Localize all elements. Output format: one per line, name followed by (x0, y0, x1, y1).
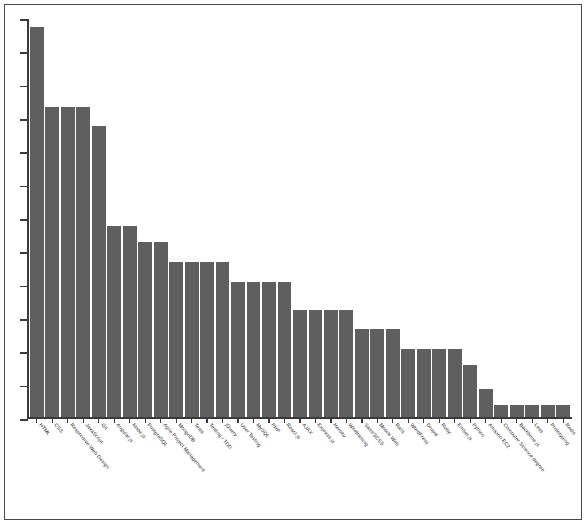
bar-slot (91, 19, 106, 417)
bar-slot (29, 19, 44, 417)
bar[interactable] (92, 126, 106, 417)
bar[interactable] (309, 310, 323, 417)
bar-slot (540, 19, 555, 417)
bar-slot (44, 19, 59, 417)
y-axis-tick (20, 19, 28, 21)
bar-slot (215, 19, 230, 417)
bar-series (29, 19, 571, 417)
bar[interactable] (510, 405, 524, 417)
y-axis-tick (20, 119, 28, 121)
bar[interactable] (278, 282, 292, 417)
x-axis-tick (547, 417, 548, 423)
bar-slot (246, 19, 261, 417)
x-axis-tick (114, 417, 115, 423)
x-axis-tick (563, 417, 564, 423)
x-axis-tick (222, 417, 223, 423)
x-axis-tick (268, 417, 269, 423)
x-axis-tick (392, 417, 393, 423)
x-axis-tick (315, 417, 316, 423)
chart-page: HTMLCSSResponsive Web DesignJavaScriptGi… (0, 0, 588, 527)
bar[interactable] (247, 282, 261, 417)
x-axis-tick (470, 417, 471, 423)
x-axis-tick (408, 417, 409, 423)
x-axis-tick (439, 417, 440, 423)
x-axis-label: Python (472, 422, 486, 438)
bar[interactable] (324, 310, 338, 417)
bar-slot (277, 19, 292, 417)
bar-slot (199, 19, 214, 417)
x-axis-tick (176, 417, 177, 423)
x-axis-label: Redis (564, 422, 577, 436)
bar[interactable] (169, 262, 183, 417)
chart-frame: HTMLCSSResponsive Web DesignJavaScriptGi… (4, 4, 582, 520)
bar[interactable] (370, 329, 384, 417)
x-axis-tick (253, 417, 254, 423)
bar-slot (509, 19, 524, 417)
x-axis-tick (160, 417, 161, 423)
bar[interactable] (293, 310, 307, 417)
bar[interactable] (154, 242, 168, 417)
bar[interactable] (45, 107, 59, 417)
bar-slot (168, 19, 183, 417)
x-axis-tick (330, 417, 331, 423)
x-axis-label: Rails (394, 422, 406, 434)
x-axis-tick (361, 417, 362, 423)
x-axis-tick (532, 417, 533, 423)
x-axis-label: React.js (286, 422, 302, 440)
bar[interactable] (479, 389, 493, 417)
bar[interactable] (525, 405, 539, 417)
x-axis-label: Heroku (332, 422, 347, 438)
x-axis-label: Ruby (441, 422, 453, 435)
bar[interactable] (138, 242, 152, 417)
bar[interactable] (339, 310, 353, 417)
bar-slot (339, 19, 354, 417)
bar-slot (416, 19, 431, 417)
bar[interactable] (401, 349, 415, 417)
y-axis-tick (20, 219, 28, 221)
x-axis-tick (98, 417, 99, 423)
bar[interactable] (123, 226, 137, 417)
bar[interactable] (494, 405, 508, 417)
bar[interactable] (432, 349, 446, 417)
bar[interactable] (417, 349, 431, 417)
bar[interactable] (556, 405, 570, 417)
bar-slot (137, 19, 152, 417)
bar[interactable] (76, 107, 90, 417)
bar[interactable] (448, 349, 462, 417)
x-axis-tick (485, 417, 486, 423)
bar-slot (555, 19, 570, 417)
bar-slot (106, 19, 121, 417)
x-axis-label: Tests (193, 422, 205, 435)
bar-slot (478, 19, 493, 417)
bar[interactable] (541, 405, 555, 417)
bar[interactable] (463, 365, 477, 417)
x-axis-tick (145, 417, 146, 423)
bar-slot (401, 19, 416, 417)
bar[interactable] (30, 27, 44, 417)
bar[interactable] (200, 262, 214, 417)
bar[interactable] (386, 329, 400, 417)
x-axis-label: Drupal (425, 422, 439, 437)
y-axis-tick (20, 352, 28, 354)
x-axis-label: Git (100, 422, 108, 430)
y-axis-tick (20, 386, 28, 388)
bar[interactable] (231, 282, 245, 417)
x-axis-tick (52, 417, 53, 423)
bar[interactable] (262, 282, 276, 417)
bar-slot (75, 19, 90, 417)
bar[interactable] (185, 262, 199, 417)
x-axis-tick (516, 417, 517, 423)
bar-slot (354, 19, 369, 417)
x-axis-label: HTML (38, 422, 51, 436)
bar[interactable] (107, 226, 121, 417)
bar[interactable] (61, 107, 75, 417)
bar[interactable] (216, 262, 230, 417)
x-axis-tick (237, 417, 238, 423)
bar[interactable] (355, 329, 369, 417)
bar-slot (60, 19, 75, 417)
x-axis-label: CSS (53, 422, 64, 434)
x-axis-tick (423, 417, 424, 423)
x-axis-tick (206, 417, 207, 423)
bar-slot (432, 19, 447, 417)
bar-slot (447, 19, 462, 417)
